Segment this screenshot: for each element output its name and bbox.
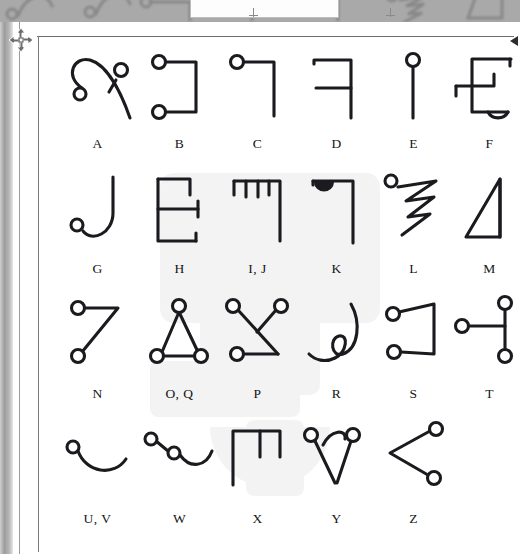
glyph-label: X (216, 511, 299, 527)
glyph-a (56, 40, 139, 136)
glyph-s (372, 290, 455, 386)
glyph-cell-d[interactable]: D (295, 40, 378, 165)
document-page: A B C (0, 0, 520, 554)
glyph-cell-l[interactable]: L (372, 165, 455, 290)
top-white-panel (190, 0, 339, 18)
glyph-grid: A B C (20, 40, 520, 550)
glyph-cell-g[interactable]: G (56, 165, 139, 290)
glyph-label: D (295, 136, 378, 152)
glyph-label: P (216, 386, 299, 402)
glyph-cell-c[interactable]: C (216, 40, 299, 165)
glyph-uv (56, 415, 139, 511)
glyph-row: U, V W (20, 415, 520, 540)
glyph-p (216, 290, 299, 386)
glyph-cell-r[interactable]: R (295, 290, 378, 415)
glyph-label: A (56, 136, 139, 152)
glyph-cell-b[interactable]: B (138, 40, 221, 165)
glyph-label: N (56, 386, 139, 402)
glyph-label: Z (372, 511, 455, 527)
glyph-cell-h[interactable]: H (138, 165, 221, 290)
glyph-cell-empty (448, 415, 520, 540)
glyph-label: K (295, 261, 378, 277)
glyph-b (138, 40, 221, 136)
glyph-y (295, 415, 378, 511)
glyph-label: E (372, 136, 455, 152)
glyph-x (216, 415, 299, 511)
glyph-w (138, 415, 221, 511)
glyph-label: S (372, 386, 455, 402)
glyph-z (372, 415, 455, 511)
glyph-label: Y (295, 511, 378, 527)
glyph-label: F (448, 136, 520, 152)
glyph-row: A B C (20, 40, 520, 165)
glyph-g (56, 165, 139, 261)
glyph-label: H (138, 261, 221, 277)
glyph-cell-p[interactable]: P (216, 290, 299, 415)
glyph-cell-a[interactable]: A (56, 40, 139, 165)
page-left-edge (0, 22, 13, 554)
glyph-r (295, 290, 378, 386)
glyph-k (295, 165, 378, 261)
glyph-row: N O, Q (20, 290, 520, 415)
glyph-cell-k[interactable]: K (295, 165, 378, 290)
glyph-h (138, 165, 221, 261)
glyph-label: L (372, 261, 455, 277)
glyph-cell-uv[interactable]: U, V (56, 415, 139, 540)
glyph-cell-oq[interactable]: O, Q (138, 290, 221, 415)
glyph-cell-z[interactable]: Z (372, 415, 455, 540)
glyph-label: I, J (216, 261, 299, 277)
glyph-label: R (295, 386, 378, 402)
glyph-m (448, 165, 520, 261)
glyph-label: W (138, 511, 221, 527)
glyph-e (372, 40, 455, 136)
glyph-row: G H (20, 165, 520, 290)
glyph-d (295, 40, 378, 136)
glyph-label: B (138, 136, 221, 152)
glyph-label: U, V (56, 511, 139, 527)
glyph-label: C (216, 136, 299, 152)
glyph-t (448, 290, 520, 386)
glyph-label: G (56, 261, 139, 277)
glyph-ij (216, 165, 299, 261)
ghost-tick-foot-2 (386, 15, 395, 16)
glyph-cell-s[interactable]: S (372, 290, 455, 415)
glyph-cell-y[interactable]: Y (295, 415, 378, 540)
glyph-f (448, 40, 520, 136)
glyph-c (216, 40, 299, 136)
glyph-cell-n[interactable]: N (56, 290, 139, 415)
scrolled-page-strip (0, 0, 520, 22)
glyph-l (372, 165, 455, 261)
glyph-cell-w[interactable]: W (138, 415, 221, 540)
glyph-oq (138, 290, 221, 386)
glyph-cell-t[interactable]: T (448, 290, 520, 415)
glyph-n (56, 290, 139, 386)
glyph-label: T (448, 386, 520, 402)
glyph-cell-m[interactable]: M (448, 165, 520, 290)
glyph-label: M (448, 261, 520, 277)
glyph-cell-f[interactable]: F (448, 40, 520, 165)
page-top-rule (37, 36, 514, 37)
glyph-label: O, Q (138, 386, 221, 402)
ghost-tick-foot-1 (249, 15, 258, 16)
glyph-cell-e[interactable]: E (372, 40, 455, 165)
glyph-cell-x[interactable]: X (216, 415, 299, 540)
glyph-cell-ij[interactable]: I, J (216, 165, 299, 290)
